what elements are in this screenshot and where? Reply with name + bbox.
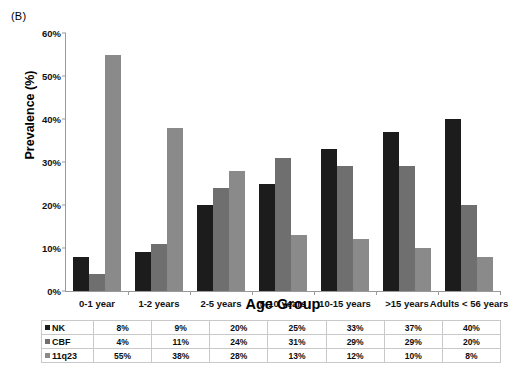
legend-swatch-icon (45, 339, 50, 344)
table-cell: 11% (152, 335, 210, 349)
legend-swatch-icon (45, 353, 50, 358)
table-cell: 8% (442, 349, 500, 363)
table-cell: 29% (326, 335, 384, 349)
table-cell: 8% (94, 321, 152, 335)
bar-cbf-5 (399, 166, 415, 291)
bar-group-bars (252, 33, 314, 291)
bar-nk-1 (135, 252, 151, 291)
bar-cbf-6 (461, 205, 477, 291)
table-cell: 4% (94, 335, 152, 349)
bar-group: 5-10 years (252, 33, 314, 291)
bar-nk-4 (321, 149, 337, 291)
bar-cbf-0 (89, 274, 105, 291)
legend-label: CBF (52, 337, 71, 347)
data-table-body: NK8%9%20%25%33%37%40%CBF4%11%24%31%29%29… (42, 321, 501, 363)
bar-11q23-3 (291, 235, 307, 291)
y-tick-label: 40% (42, 114, 61, 125)
bar-group-bars (438, 33, 500, 291)
x-tick-mark (500, 291, 501, 295)
legend-swatch-icon (45, 325, 50, 330)
bar-group-bars (314, 33, 376, 291)
y-tick-label: 10% (42, 243, 61, 254)
table-cell: 33% (326, 321, 384, 335)
bar-cbf-3 (275, 158, 291, 291)
x-tick-mark (314, 291, 315, 295)
table-cell: 20% (210, 321, 268, 335)
bar-11q23-2 (229, 171, 245, 291)
table-cell: 31% (268, 335, 326, 349)
bar-11q23-4 (353, 239, 369, 291)
table-cell: 9% (152, 321, 210, 335)
x-axis-line (65, 291, 500, 292)
x-tick-mark (438, 291, 439, 295)
table-row: NK8%9%20%25%33%37%40% (42, 321, 501, 335)
table-cell: 28% (210, 349, 268, 363)
x-tick-mark (252, 291, 253, 295)
bar-group: 0-1 year (66, 33, 128, 291)
bar-11q23-0 (105, 55, 121, 292)
bar-cbf-1 (151, 244, 167, 291)
legend-label: NK (52, 323, 65, 333)
bar-group: 1-2 years (128, 33, 190, 291)
bar-group-bars (128, 33, 190, 291)
bar-nk-5 (383, 132, 399, 291)
table-row-label-nk: NK (42, 321, 94, 335)
table-cell: 10% (384, 349, 442, 363)
table-row-label-11q23: 11q23 (42, 349, 94, 363)
table-cell: 25% (268, 321, 326, 335)
table-cell: 37% (384, 321, 442, 335)
bar-group-bars (66, 33, 128, 291)
bar-nk-3 (259, 184, 275, 292)
table-cell: 20% (442, 335, 500, 349)
table-cell: 24% (210, 335, 268, 349)
bar-cbf-4 (337, 166, 353, 291)
bar-11q23-1 (167, 128, 183, 291)
plot-area: 0%10%20%30%40%50%60% 0-1 year1-2 years2-… (66, 33, 500, 291)
table-row-label-cbf: CBF (42, 335, 94, 349)
table-cell: 38% (152, 349, 210, 363)
table-cell: 55% (94, 349, 152, 363)
bar-group-bars (376, 33, 438, 291)
table-cell: 12% (326, 349, 384, 363)
bar-11q23-6 (477, 257, 493, 291)
y-tick-label: 60% (42, 28, 61, 39)
bar-nk-0 (73, 257, 89, 291)
y-tick-label: 0% (47, 286, 61, 297)
bar-group: 10-15 years (314, 33, 376, 291)
y-tick-label: 30% (42, 157, 61, 168)
bar-cbf-2 (213, 188, 229, 291)
y-tick-label: 20% (42, 200, 61, 211)
y-tick-label: 50% (42, 71, 61, 82)
bar-nk-2 (197, 205, 213, 291)
x-axis-title: Age Group (66, 296, 500, 312)
bar-group-bars (190, 33, 252, 291)
legend-label: 11q23 (52, 351, 77, 361)
table-cell: 29% (384, 335, 442, 349)
bar-group: 2-5 years (190, 33, 252, 291)
table-cell: 40% (442, 321, 500, 335)
y-axis-title: Prevalence (%) (23, 30, 37, 200)
x-tick-mark (128, 291, 129, 295)
bar-group: Adults < 56 years (438, 33, 500, 291)
bar-chart-figure: Prevalence (%) 0%10%20%30%40%50%60% 0-1 … (0, 0, 523, 312)
x-tick-mark (190, 291, 191, 295)
table-row: 11q2355%38%28%13%12%10%8% (42, 349, 501, 363)
x-tick-mark (376, 291, 377, 295)
bar-group: >15 years (376, 33, 438, 291)
data-table: NK8%9%20%25%33%37%40%CBF4%11%24%31%29%29… (41, 320, 501, 363)
bar-nk-6 (445, 119, 461, 291)
bar-11q23-5 (415, 248, 431, 291)
table-row: CBF4%11%24%31%29%29%20% (42, 335, 501, 349)
table-cell: 13% (268, 349, 326, 363)
